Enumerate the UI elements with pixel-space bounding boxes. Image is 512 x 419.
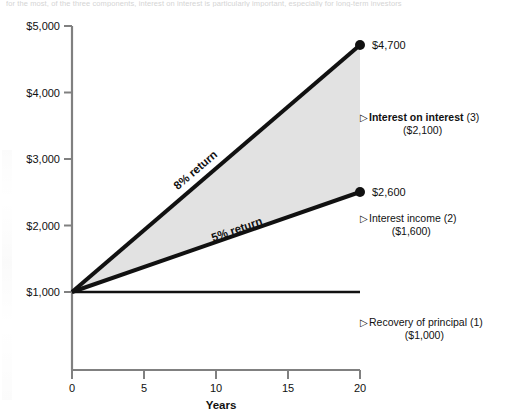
annotation-index: (2) — [444, 212, 457, 224]
x-axis-ticks — [72, 370, 360, 379]
endpoint-marker-5-percent — [355, 187, 365, 197]
chart-plot-area: $5,000 $4,000 $3,000 $2,000 $1,000 0 5 1… — [0, 0, 512, 419]
endpoint-marker-8-percent — [355, 40, 365, 50]
annotation-recovery-of-principal: ▷Recovery of principal (1) ($1,000) — [360, 316, 483, 342]
endpoint-label-2600: $2,600 — [372, 186, 406, 198]
x-tick-label-5: 5 — [141, 382, 147, 394]
annotation-index: (3) — [466, 111, 479, 123]
annotation-amount: ($1,600) — [360, 225, 457, 238]
chart-figure: for the most, of the three components, i… — [0, 0, 512, 419]
triangle-right-icon: ▷ — [360, 112, 368, 123]
annotation-label: Interest income — [369, 212, 441, 224]
y-tick-label-1000: $1,000 — [26, 286, 60, 298]
annotation-interest-income: ▷Interest income (2) ($1,600) — [360, 212, 457, 238]
triangle-right-icon: ▷ — [360, 317, 368, 328]
y-tick-label-2000: $2,000 — [26, 220, 60, 232]
annotation-index: (1) — [470, 316, 483, 328]
annotation-amount: ($1,000) — [360, 329, 483, 342]
x-tick-label-15: 15 — [282, 382, 294, 394]
y-axis-ticks — [64, 26, 72, 292]
annotation-interest-on-interest: ▷Interest on interest (3) ($2,100) — [360, 111, 479, 137]
annotation-amount: ($2,100) — [360, 124, 479, 137]
triangle-right-icon: ▷ — [360, 213, 368, 224]
x-axis-title: Years — [206, 399, 237, 411]
annotation-label: Interest on interest — [369, 111, 464, 123]
annotation-label: Recovery of principal — [369, 316, 467, 328]
y-tick-label-5000: $5,000 — [26, 20, 60, 32]
x-tick-label-10: 10 — [210, 382, 222, 394]
x-tick-label-0: 0 — [69, 382, 75, 394]
x-tick-label-20: 20 — [354, 382, 366, 394]
y-tick-label-3000: $3,000 — [26, 153, 60, 165]
y-tick-label-4000: $4,000 — [26, 87, 60, 99]
endpoint-label-4700: $4,700 — [372, 39, 406, 51]
